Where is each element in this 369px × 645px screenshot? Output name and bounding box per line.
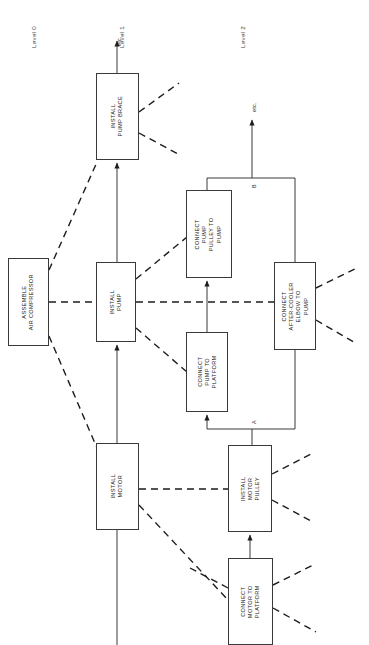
- etc-label-level-2: etc.: [251, 103, 257, 113]
- dashed-pump-brace-branch-upper: [139, 83, 179, 112]
- node-connect-pump-pulley-to-pump[interactable]: CONNECT PUMP PULLEY TO PUMP: [186, 190, 232, 278]
- node-label-install-motor: INSTALL MOTOR: [110, 474, 124, 499]
- node-label-connect-after-cooler-elbow-to-pump: CONNECT AFTER-COOLER ELBOW TO PUMP: [281, 282, 310, 330]
- dashed-motor-pulley-branch-upper: [272, 453, 313, 474]
- node-install-motor[interactable]: INSTALL MOTOR: [96, 443, 139, 530]
- dashed-motor-platform-branch-lower-right: [273, 608, 316, 632]
- node-label-install-motor-pulley: INSTALL MOTOR PULLEY: [239, 476, 261, 501]
- node-line: CONNECT: [196, 356, 203, 389]
- node-line: INSTALL: [109, 290, 116, 315]
- node-line: CONNECT: [240, 585, 247, 618]
- etc-label-level-1: etc.: [116, 37, 122, 47]
- node-line: PUMP TO: [203, 356, 210, 389]
- node-install-pump-brace[interactable]: INSTALL PUMP BRACE: [96, 73, 139, 160]
- dashed-assemble-to-install-motor: [49, 336, 97, 448]
- dashed-install-pump-to-pump-platform: [136, 328, 187, 372]
- dashed-motor-platform-branch-left: [190, 568, 228, 588]
- node-line: AIR COMPRESSOR: [29, 274, 36, 330]
- node-line: CONNECT: [281, 282, 288, 330]
- dashed-assemble-to-pump-brace: [49, 162, 97, 270]
- dashed-pump-brace-branch-lower: [139, 133, 180, 155]
- node-line: PUMP: [216, 217, 223, 251]
- node-install-motor-pulley[interactable]: INSTALL MOTOR PULLEY: [228, 445, 272, 532]
- diagram-canvas: Level 0 Level 1 Level 2 etc. etc. B A AS…: [0, 0, 369, 645]
- dashed-motor-platform-branch-upper-right: [273, 565, 313, 585]
- junction-label-b: B: [251, 184, 257, 188]
- node-install-pump[interactable]: INSTALL PUMP: [96, 262, 136, 342]
- node-line: PLATFORM: [211, 356, 218, 389]
- node-label-connect-motor-to-platform: CONNECT MOTOR TO PLATFORM: [240, 585, 262, 618]
- node-assemble-air-compressor[interactable]: ASSEMBLE AIR COMPRESSOR: [8, 258, 49, 346]
- node-line: PULLEY TO: [209, 217, 216, 251]
- level-label-0: Level 0: [30, 26, 37, 48]
- node-label-install-pump-brace: INSTALL PUMP BRACE: [110, 96, 124, 136]
- node-line: MOTOR TO: [247, 585, 254, 618]
- node-line: MOTOR: [246, 476, 253, 501]
- dashed-install-pump-to-pump-pulley: [136, 237, 187, 279]
- node-connect-pump-to-platform[interactable]: CONNECT PUMP TO PLATFORM: [186, 332, 228, 412]
- node-line: MOTOR: [117, 474, 124, 499]
- node-line: ELBOW TO: [295, 282, 302, 330]
- node-label-install-pump: INSTALL PUMP: [109, 290, 123, 315]
- node-label-connect-pump-pulley-to-pump: CONNECT PUMP PULLEY TO PUMP: [195, 217, 224, 251]
- dashed-after-cooler-branch-lower: [316, 320, 357, 344]
- junction-label-a: A: [251, 420, 257, 424]
- level-label-2: Level 2: [239, 26, 246, 48]
- node-line: INSTALL: [239, 476, 246, 501]
- node-label-assemble-air-compressor: ASSEMBLE AIR COMPRESSOR: [21, 274, 35, 330]
- node-line: PULLEY: [254, 476, 261, 501]
- dashed-motor-pulley-branch-lower: [272, 500, 313, 522]
- node-connect-after-cooler-elbow-to-pump[interactable]: CONNECT AFTER-COOLER ELBOW TO PUMP: [274, 262, 316, 350]
- dashed-after-cooler-branch-upper: [316, 268, 357, 288]
- node-line: PUMP: [116, 290, 123, 315]
- node-line: PUMP: [302, 282, 309, 330]
- dashed-install-motor-to-motor-platform: [139, 505, 229, 601]
- node-label-connect-pump-to-platform: CONNECT PUMP TO PLATFORM: [196, 356, 218, 389]
- node-line: PLATFORM: [254, 585, 261, 618]
- node-line: PUMP BRACE: [117, 96, 124, 136]
- node-connect-motor-to-platform[interactable]: CONNECT MOTOR TO PLATFORM: [228, 558, 273, 645]
- node-line: AFTER-COOLER: [288, 282, 295, 330]
